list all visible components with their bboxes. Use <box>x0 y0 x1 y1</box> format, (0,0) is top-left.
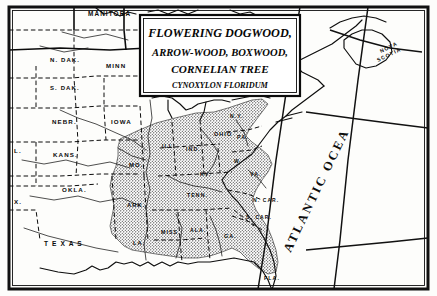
label-alabama: ALA. <box>190 227 207 233</box>
label-ohio: OHIO <box>214 131 232 137</box>
label-kansas: KANS. <box>53 151 78 158</box>
label-nebraska: NEBR. <box>52 118 77 125</box>
label-north-carolina: N. CAR. <box>253 197 279 203</box>
species-name: CYNOXYLON FLORIDUM <box>172 81 268 90</box>
label-indiana: IND. <box>186 146 201 152</box>
label-north-dakota: N. DAK. <box>50 57 80 63</box>
map-canvas: MANITOBA NOVA SCOTIA N. DAK. MINN S. DAK… <box>0 0 437 296</box>
label-illinois: ILL. <box>162 143 176 149</box>
title-line-2: ARROW-WOOD, BOXWOOD, <box>151 47 288 58</box>
label-virginia: VA. <box>250 171 262 177</box>
label-louisiana: LA. <box>133 240 145 246</box>
label-arkansas: ARK. <box>127 202 146 208</box>
label-pennsylvania: PA. <box>237 134 249 140</box>
label-oklahoma: OKLA. <box>62 186 87 193</box>
label-iowa: IOWA <box>111 118 132 125</box>
range-map-figure: MANITOBA NOVA SCOTIA N. DAK. MINN S. DAK… <box>0 0 437 296</box>
label-colorado: L. <box>14 147 22 154</box>
label-south-dakota: S. DAK. <box>50 85 80 91</box>
label-texas: T E X A S <box>44 240 83 247</box>
title-line-1: FLOWERING DOGWOOD, <box>147 26 292 40</box>
label-minnesota: MINN <box>106 62 126 69</box>
label-georgia: GA. <box>224 233 237 239</box>
title-cartouche: FLOWERING DOGWOOD, ARROW-WOOD, BOXWOOD, … <box>140 15 300 96</box>
label-missouri: MO. <box>129 162 144 168</box>
label-new-mexico: X. <box>14 198 22 205</box>
label-manitoba: MANITOBA <box>88 10 131 17</box>
label-mississippi: MISS. <box>161 229 181 235</box>
label-south-carolina: S. CAR. <box>246 214 272 220</box>
label-tennessee: TENN. <box>187 192 208 198</box>
label-kentucky: KY. <box>200 171 211 177</box>
label-west-virginia: W. <box>234 158 242 164</box>
label-new-york: N.Y. <box>230 113 244 119</box>
label-florida: FLA. <box>264 275 280 281</box>
title-line-3: CORNELIAN TREE <box>171 63 268 75</box>
